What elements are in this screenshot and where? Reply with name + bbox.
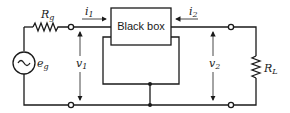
output-terminal-bottom <box>228 102 233 107</box>
i1-label: i1 <box>85 5 94 19</box>
junction-dot <box>148 103 152 107</box>
input-terminal-top <box>68 24 73 29</box>
resistor-rl-icon <box>252 56 260 78</box>
rg-label: Rg <box>40 8 54 22</box>
input-terminal-bottom <box>68 102 73 107</box>
black-box-label: Black box <box>117 20 165 32</box>
circuit-diagram: Black box Rg eg RL i1 i2 v1 v2 <box>0 0 290 113</box>
v2-label: v2 <box>209 57 220 71</box>
load-branch <box>234 27 260 105</box>
ac-source-icon <box>13 52 35 74</box>
common-frame <box>103 37 179 84</box>
eg-label: eg <box>37 57 49 71</box>
rl-label: RL <box>263 62 278 76</box>
i2-label: i2 <box>189 5 198 19</box>
junction-dot <box>148 82 152 86</box>
resistor-rg-icon <box>33 23 68 31</box>
output-terminal-top <box>228 24 233 29</box>
v1-label: v1 <box>76 57 87 71</box>
